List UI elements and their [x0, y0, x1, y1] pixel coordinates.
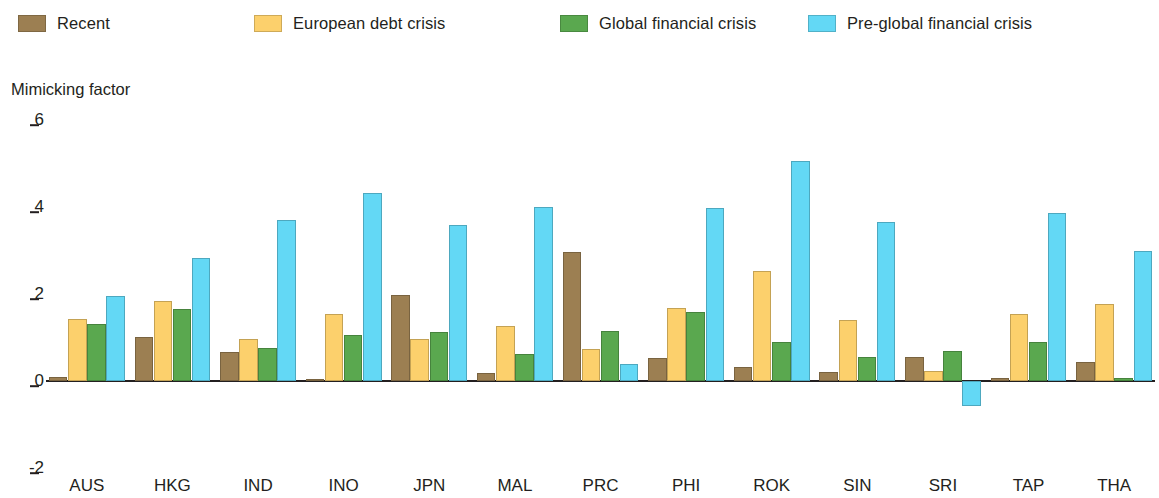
chart-bar: [173, 309, 192, 381]
x-axis-category-label: PHI: [672, 476, 700, 496]
chart-bar: [496, 326, 515, 381]
chart-bar: [648, 358, 667, 381]
chart-bar: [87, 324, 106, 381]
x-axis-category-label: SRI: [929, 476, 957, 496]
y-axis-tick-label: 4: [0, 197, 44, 217]
chart-bar: [962, 381, 981, 406]
chart-bar: [1076, 362, 1095, 381]
chart-bar: [620, 364, 639, 381]
chart-bar: [991, 378, 1010, 381]
x-axis-category-label: SIN: [843, 476, 871, 496]
chart-bar: [734, 367, 753, 381]
chart-bar: [924, 371, 943, 381]
chart-bar: [1029, 342, 1048, 381]
chart-bar: [106, 296, 125, 381]
chart-bar: [858, 357, 877, 381]
chart-bar: [877, 222, 896, 381]
chart-bar: [449, 225, 468, 381]
x-axis-category-label: JPN: [413, 476, 445, 496]
x-axis-category-label: THA: [1097, 476, 1131, 496]
chart-bar: [905, 357, 924, 381]
y-axis-tick-mark: [30, 385, 39, 387]
x-axis-category-label: HKG: [154, 476, 191, 496]
chart-bar: [258, 348, 277, 381]
y-axis-tick-label: 0: [0, 371, 44, 391]
x-axis-category-label: TAP: [1013, 476, 1045, 496]
chart-bar: [477, 373, 496, 381]
x-axis-category-label: IND: [243, 476, 272, 496]
chart-bar: [753, 271, 772, 381]
chart-bar: [49, 377, 68, 381]
chart-bar: [135, 337, 154, 381]
y-axis-tick-label: -2: [0, 458, 44, 478]
chart-figure: RecentEuropean debt crisisGlobal financi…: [0, 0, 1159, 498]
chart-bar: [582, 349, 601, 381]
chart-bar: [1048, 213, 1067, 381]
chart-bar: [154, 301, 173, 381]
chart-bar: [430, 332, 449, 381]
chart-bar: [239, 339, 258, 381]
chart-bar: [391, 295, 410, 381]
chart-bar: [344, 335, 363, 381]
x-axis-category-label: INO: [329, 476, 359, 496]
y-axis-tick-mark: [30, 124, 39, 126]
chart-bar: [534, 207, 553, 381]
chart-bar: [819, 372, 838, 381]
chart-bar: [515, 354, 534, 381]
y-axis-tick-label: 2: [0, 284, 44, 304]
chart-bar: [192, 258, 211, 381]
chart-bar: [1095, 304, 1114, 381]
chart-bar: [791, 161, 810, 381]
chart-bar: [706, 208, 725, 381]
chart-bar: [839, 320, 858, 381]
chart-bar: [1134, 251, 1153, 381]
x-axis-category-label: AUS: [69, 476, 104, 496]
x-axis-category-label: MAL: [497, 476, 532, 496]
x-axis-category-label: ROK: [753, 476, 790, 496]
chart-bar: [601, 331, 620, 381]
chart-bar: [686, 312, 705, 381]
plot-area: 6420-2AUSHKGINDINOJPNMALPRCPHIROKSINSRIT…: [0, 0, 1159, 498]
y-axis-tick-mark: [30, 211, 39, 213]
x-axis-category-label: PRC: [583, 476, 619, 496]
chart-bar: [68, 319, 87, 381]
chart-bar: [325, 314, 344, 381]
chart-bar: [943, 351, 962, 381]
chart-bar: [1010, 314, 1029, 381]
chart-bar: [563, 252, 582, 381]
chart-bar: [1114, 378, 1133, 381]
chart-bar: [220, 352, 239, 381]
chart-bar: [277, 220, 296, 381]
y-axis-tick-mark: [30, 298, 39, 300]
y-axis-tick-mark: [30, 472, 39, 474]
chart-bar: [667, 308, 686, 381]
chart-bar: [772, 342, 791, 381]
chart-bar: [363, 193, 382, 381]
chart-bar: [306, 379, 325, 381]
chart-bar: [410, 339, 429, 381]
y-axis-tick-label: 6: [0, 110, 44, 130]
